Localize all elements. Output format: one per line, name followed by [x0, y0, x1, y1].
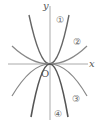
curve-4-label: ④ — [54, 109, 62, 119]
curve-1-label: ① — [56, 15, 64, 25]
curve-2-label: ② — [73, 37, 81, 47]
origin-label: O — [41, 68, 49, 79]
y-axis-label: y — [42, 0, 49, 11]
curve-3-label: ③ — [72, 94, 80, 104]
parabola-diagram: y x O ① ② ③ ④ — [0, 0, 103, 122]
x-axis-label: x — [89, 58, 95, 69]
